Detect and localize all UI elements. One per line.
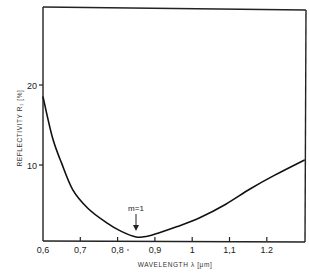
- x-tick-label: 1.2: [261, 245, 274, 255]
- reflectivity-curve: [43, 97, 304, 237]
- x-axis-label: WAVELENGTH λ [μm]: [138, 261, 213, 269]
- reflectivity-chart: 0,60,70,80,911,11.2 1020 m=1 WAVELENGTH …: [0, 0, 309, 275]
- y-tick-label: 10: [27, 161, 37, 171]
- plot-frame: [43, 7, 306, 242]
- arrow-down-icon: [133, 225, 139, 231]
- y-tick-label: 20: [27, 81, 37, 91]
- scan-speck: [127, 249, 129, 251]
- m1-annotation: m=1: [128, 204, 144, 231]
- x-tick-label: 0,9: [149, 245, 162, 255]
- x-tick-label: 0,8: [111, 245, 124, 255]
- annotation-label: m=1: [128, 204, 144, 213]
- x-axis-ticks: 0,60,70,80,911,11.2: [37, 237, 273, 255]
- x-tick-label: 0,6: [37, 245, 50, 255]
- x-tick-label: 1: [190, 245, 195, 255]
- y-axis-label: REFLECTIVITY R₁ [%]: [16, 89, 24, 166]
- y-axis-ticks: 1020: [27, 81, 43, 171]
- x-tick-label: 0,7: [74, 245, 87, 255]
- x-tick-label: 1,1: [223, 245, 236, 255]
